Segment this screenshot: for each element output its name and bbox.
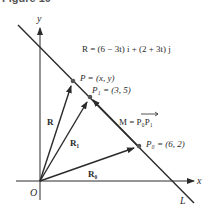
vector-R1-label: R₁ — [70, 138, 79, 148]
point-P — [71, 79, 76, 84]
point-P1 — [88, 95, 93, 100]
vector-R0 — [40, 148, 134, 181]
point-P1-label: P₁ = (3, 5) — [91, 85, 131, 95]
vector-line-diagram: y x O L R = (6 − 3t) i + (2 + 3t) j P = … — [0, 0, 209, 217]
line-L-label: L — [179, 195, 186, 206]
vector-R — [40, 86, 71, 181]
vector-R0-label: R₀ — [88, 169, 97, 179]
point-P0 — [137, 144, 142, 149]
point-P-label: P = (x, y) — [79, 73, 114, 83]
point-P0-label: P₀ = (6, 2) — [145, 139, 185, 149]
equation-label: R = (6 − 3t) i + (2 + 3t) j — [82, 44, 171, 54]
vector-R-label: R — [47, 117, 54, 127]
vector-R1 — [40, 102, 87, 181]
vector-M-label: M = P₀P₁ — [119, 117, 153, 127]
y-axis-label: y — [36, 13, 42, 24]
origin-label: O — [30, 187, 37, 198]
x-axis-label: x — [196, 175, 202, 186]
